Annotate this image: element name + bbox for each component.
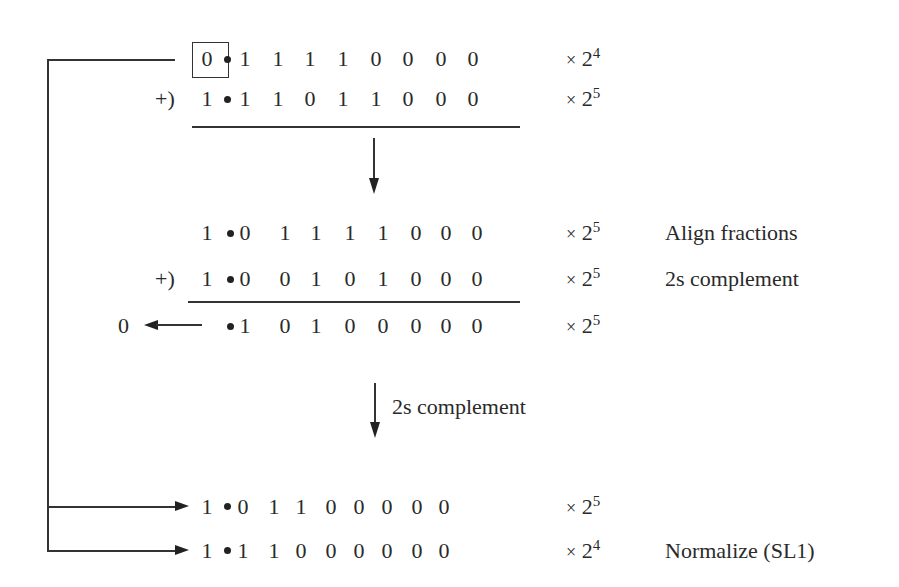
bit: 1 <box>197 538 217 564</box>
bit: 1 <box>333 46 353 72</box>
bit: 0 <box>340 266 360 292</box>
bit: 0 <box>406 313 426 339</box>
bit: 0 <box>398 86 418 112</box>
bit: 0 <box>366 46 386 72</box>
bit: 0 <box>467 220 487 246</box>
bit: 0 <box>300 86 320 112</box>
bit: 1 <box>300 46 320 72</box>
bracket-arrow-line-2 <box>47 550 177 552</box>
binary-point <box>224 96 231 103</box>
exponent: × 25 <box>566 220 600 247</box>
bit: 1 <box>373 266 393 292</box>
binary-point <box>224 56 231 63</box>
bit: 1 <box>306 220 326 246</box>
bit: 1 <box>275 220 295 246</box>
bit: 0 <box>235 266 255 292</box>
bit: 0 <box>431 86 451 112</box>
bit: 1 <box>264 538 284 564</box>
exponent: × 25 <box>566 86 600 113</box>
bit: 0 <box>233 494 253 520</box>
arrow-right-icon <box>175 501 189 511</box>
bit: 1 <box>333 86 353 112</box>
bit: 1 <box>291 494 311 520</box>
bit: 1 <box>235 313 255 339</box>
arrow-down-icon <box>370 422 380 438</box>
bit: 0 <box>275 266 295 292</box>
exponent: × 25 <box>566 266 600 293</box>
bit: 1 <box>197 86 217 112</box>
bit: 0 <box>398 46 418 72</box>
bit: 0 <box>291 538 311 564</box>
bit: 1 <box>306 313 326 339</box>
bit: 0 <box>436 266 456 292</box>
bit: 0 <box>340 313 360 339</box>
bit: 0 <box>431 46 451 72</box>
bit: 0 <box>197 46 217 72</box>
bit: 1 <box>197 494 217 520</box>
bit: 1 <box>268 86 288 112</box>
bit: 1 <box>233 538 253 564</box>
bit: 0 <box>407 494 427 520</box>
down-arrow-shaft <box>373 138 375 180</box>
bit: 1 <box>306 266 326 292</box>
bracket-vertical-line <box>47 59 49 551</box>
binary-point <box>224 503 231 510</box>
bit: 0 <box>467 313 487 339</box>
exponent: × 25 <box>566 494 600 521</box>
carry-out: 0 <box>118 313 129 339</box>
carry-arrow-shaft <box>156 324 202 326</box>
bit: 1 <box>366 86 386 112</box>
bit: 0 <box>349 538 369 564</box>
bit: 0 <box>349 494 369 520</box>
bit: 0 <box>463 46 483 72</box>
bit: 0 <box>463 86 483 112</box>
arrow-down-icon <box>369 178 379 194</box>
bit: 0 <box>467 266 487 292</box>
bit: 0 <box>407 538 427 564</box>
binary-point <box>227 323 234 330</box>
bit: 1 <box>268 46 288 72</box>
bit: 0 <box>321 538 341 564</box>
exponent: × 24 <box>566 538 600 565</box>
bit: 0 <box>436 220 456 246</box>
bit: 1 <box>235 46 255 72</box>
arrow-right-icon <box>175 545 189 555</box>
bit: 0 <box>275 313 295 339</box>
bit: 1 <box>264 494 284 520</box>
bit: 1 <box>373 220 393 246</box>
step-note: Align fractions <box>665 220 798 246</box>
bit: 0 <box>406 220 426 246</box>
bit: 0 <box>373 313 393 339</box>
down-arrow-shaft <box>374 383 376 423</box>
plus-prefix: +) <box>155 266 175 292</box>
step-note: 2s complement <box>665 266 799 292</box>
bit: 0 <box>235 220 255 246</box>
bit: 0 <box>434 538 454 564</box>
bit: 0 <box>377 538 397 564</box>
binary-point <box>224 547 231 554</box>
bit: 1 <box>197 220 217 246</box>
exponent: × 24 <box>566 46 600 73</box>
bracket-top-line <box>47 59 175 61</box>
sum-line-1 <box>192 126 520 128</box>
exponent: × 25 <box>566 313 600 340</box>
bit: 0 <box>406 266 426 292</box>
bracket-arrow-line-1 <box>47 506 177 508</box>
bit: 1 <box>340 220 360 246</box>
bit: 0 <box>436 313 456 339</box>
binary-point <box>227 230 234 237</box>
bit: 0 <box>377 494 397 520</box>
step-note: Normalize (SL1) <box>665 538 815 564</box>
bit: 0 <box>321 494 341 520</box>
bit: 1 <box>235 86 255 112</box>
step-label: 2s complement <box>392 394 526 420</box>
plus-prefix: +) <box>155 86 175 112</box>
binary-point <box>227 276 234 283</box>
sum-line-2 <box>188 301 520 303</box>
bit: 0 <box>434 494 454 520</box>
bit: 1 <box>197 266 217 292</box>
